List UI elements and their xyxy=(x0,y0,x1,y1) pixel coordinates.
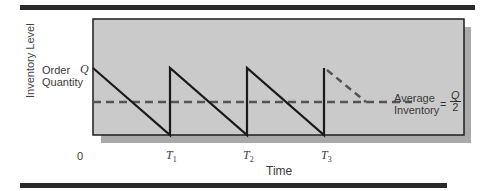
origin-tick-label: 0 xyxy=(77,150,83,162)
t1-subscript: 1 xyxy=(173,155,177,164)
t2-subscript: 2 xyxy=(250,155,254,164)
bottom-rule xyxy=(20,183,447,188)
average-line2: Inventory xyxy=(394,104,439,116)
t3-subscript: 3 xyxy=(328,155,332,164)
order-quantity-label: Order Quantity xyxy=(42,64,83,88)
order-quantity-line1: Order xyxy=(42,64,83,76)
q-tick-label: Q xyxy=(80,63,89,75)
t2-tick-label: T2 xyxy=(243,149,254,166)
t3-symbol: T xyxy=(321,148,328,162)
q-over-2-fraction: Q 2 xyxy=(450,90,461,113)
equals-sign: = xyxy=(440,98,446,110)
t1-symbol: T xyxy=(166,148,173,162)
order-quantity-line2: Quantity xyxy=(42,76,83,88)
fraction-denominator: 2 xyxy=(452,102,458,113)
t2-symbol: T xyxy=(243,148,250,162)
t3-tick-label: T3 xyxy=(321,149,332,166)
t1-tick-label: T1 xyxy=(166,149,177,166)
y-axis-label: Inventory Level xyxy=(24,23,36,98)
x-axis-label: Time xyxy=(266,165,292,177)
average-inventory-label: Average Inventory xyxy=(394,92,439,116)
average-line1: Average xyxy=(394,92,439,104)
